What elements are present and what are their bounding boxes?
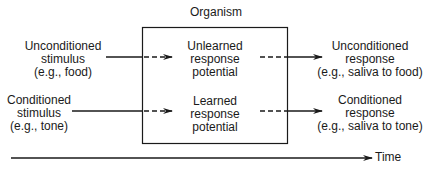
learned-response-potential: Learned response potential	[180, 95, 250, 134]
conditioned-response-label: Conditioned response (e.g., saliva to to…	[312, 94, 428, 133]
diagram-lines	[0, 0, 431, 172]
unlearned-response-potential: Unlearned response potential	[180, 40, 250, 79]
unconditioned-stimulus-label: Unconditioned stimulus (e.g., food)	[22, 40, 104, 79]
unconditioned-response-label: Unconditioned response (e.g., saliva to …	[312, 40, 428, 79]
conditioned-stimulus-label: Conditioned stimulus (e.g., tone)	[4, 94, 74, 133]
organism-label: Organism	[188, 6, 244, 19]
time-label: Time	[375, 151, 407, 164]
